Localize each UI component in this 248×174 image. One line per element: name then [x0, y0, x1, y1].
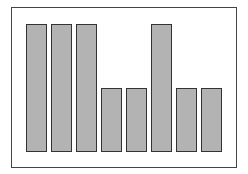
- bar-2: [51, 24, 72, 152]
- bar-6: [151, 24, 172, 152]
- bar-5: [126, 88, 147, 152]
- bar-3: [76, 24, 97, 152]
- bar-8: [201, 88, 222, 152]
- bar-7: [176, 88, 197, 152]
- bar-1: [26, 24, 47, 152]
- bar-4: [101, 88, 122, 152]
